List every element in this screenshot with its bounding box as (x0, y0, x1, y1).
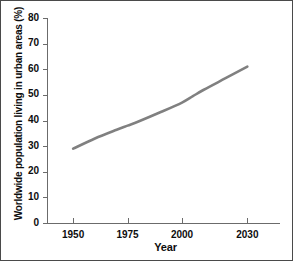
data-series-group (73, 67, 247, 149)
chart-figure: Worldwide population living in urban are… (0, 0, 293, 261)
data-line (73, 67, 247, 149)
axes-group (43, 18, 280, 224)
plot-area (1, 1, 294, 262)
